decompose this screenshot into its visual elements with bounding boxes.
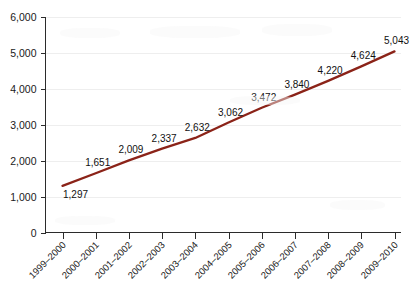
y-tick-label: 2,000 (10, 155, 36, 167)
data-point-label: 1,297 (63, 189, 88, 200)
chart-canvas: 01,0002,0003,0004,0005,0006,000 1999–200… (0, 0, 410, 295)
data-point-labels: 1,2971,6512,0092,3372,6323,0623,4723,840… (63, 35, 409, 200)
data-point-label: 1,651 (85, 157, 110, 168)
line-chart: 01,0002,0003,0004,0005,0006,000 1999–200… (0, 0, 410, 295)
data-point-label: 4,220 (318, 65, 343, 76)
y-tick-label: 4,000 (10, 83, 36, 95)
data-point-label: 2,632 (185, 122, 210, 133)
data-point-label: 5,043 (384, 35, 409, 46)
data-point-label: 3,062 (218, 107, 243, 118)
x-axis-labels: 1999–20002000–20012001–20022002–20032003… (27, 239, 400, 280)
data-point-label: 2,337 (152, 133, 177, 144)
data-point-label: 2,009 (118, 144, 143, 155)
data-point-label: 3,472 (251, 92, 276, 103)
data-point-label: 3,840 (284, 79, 309, 90)
data-line-series-1 (63, 51, 395, 186)
x-tick-label: 2009–2010 (359, 239, 400, 280)
data-point-label: 4,624 (351, 50, 376, 61)
x-axis-ticks (64, 233, 396, 239)
y-tick-label: 6,000 (10, 11, 36, 23)
y-tick-label: 0 (31, 227, 37, 239)
y-tick-label: 5,000 (10, 47, 36, 59)
y-axis-labels: 01,0002,0003,0004,0005,0006,000 (10, 11, 36, 239)
y-tick-label: 1,000 (10, 191, 36, 203)
y-tick-label: 3,000 (10, 119, 36, 131)
